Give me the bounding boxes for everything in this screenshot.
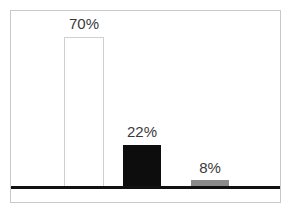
bar-chart: 70% 22% 8%	[0, 0, 292, 213]
bar-70-percent	[64, 37, 104, 187]
axis-baseline	[11, 186, 280, 189]
bar-label-8-percent: 8%	[183, 160, 237, 175]
bar-22-percent	[123, 145, 161, 187]
bar-label-70-percent: 70%	[57, 16, 111, 31]
bar-label-22-percent: 22%	[115, 124, 169, 139]
